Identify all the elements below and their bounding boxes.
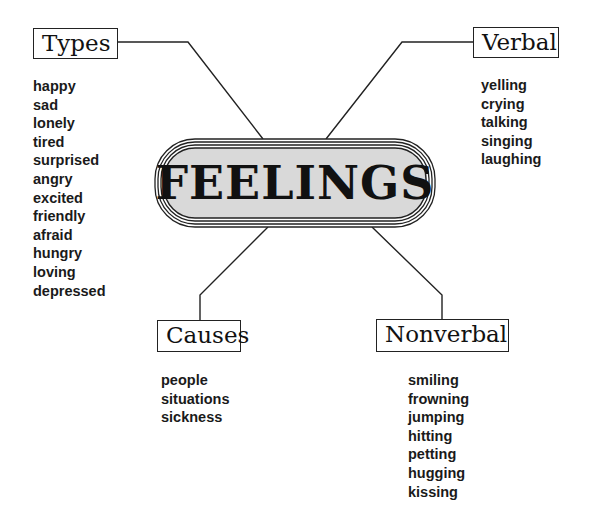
list-item: hungry — [33, 244, 106, 263]
verbal-list: yelling crying talking singing laughing — [481, 76, 541, 169]
list-item: surprised — [33, 151, 106, 170]
types-box: Types — [33, 28, 118, 59]
list-item: afraid — [33, 226, 106, 245]
list-item: yelling — [481, 76, 541, 95]
list-item: kissing — [408, 483, 469, 502]
list-item: singing — [481, 132, 541, 151]
list-item: tired — [33, 133, 106, 152]
list-item: talking — [481, 113, 541, 132]
nonverbal-box: Nonverbal — [376, 319, 509, 352]
list-item: situations — [161, 390, 229, 409]
verbal-box: Verbal — [473, 27, 559, 58]
nonverbal-list: smiling frowning jumping hitting petting… — [408, 371, 469, 501]
list-item: angry — [33, 170, 106, 189]
list-item: friendly — [33, 207, 106, 226]
list-item: petting — [408, 445, 469, 464]
causes-list: people situations sickness — [161, 371, 229, 427]
list-item: people — [161, 371, 229, 390]
types-list: happy sad lonely tired surprised angry e… — [33, 77, 106, 300]
list-item: sickness — [161, 408, 229, 427]
list-item: crying — [481, 95, 541, 114]
list-item: excited — [33, 189, 106, 208]
connector-types — [117, 42, 263, 139]
list-item: loving — [33, 263, 106, 282]
list-item: smiling — [408, 371, 469, 390]
connector-causes — [200, 227, 268, 320]
list-item: frowning — [408, 390, 469, 409]
list-item: happy — [33, 77, 106, 96]
list-item: jumping — [408, 408, 469, 427]
list-item: hitting — [408, 427, 469, 446]
list-item: lonely — [33, 114, 106, 133]
list-item: hugging — [408, 464, 469, 483]
causes-box: Causes — [157, 320, 241, 352]
connector-nonverbal — [372, 227, 442, 320]
list-item: depressed — [33, 282, 106, 301]
list-item: laughing — [481, 150, 541, 169]
list-item: sad — [33, 96, 106, 115]
center-title: FEELINGS — [155, 139, 435, 227]
connector-verbal — [326, 42, 473, 139]
